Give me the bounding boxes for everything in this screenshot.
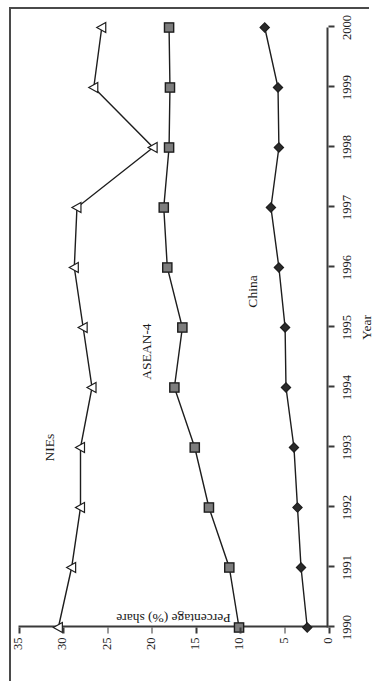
series-annotation-nies: NIEs xyxy=(41,433,57,461)
x-axis-tick xyxy=(328,566,334,568)
series-annotation-asean-4: ASEAN-4 xyxy=(138,323,154,379)
y-axis-tick xyxy=(107,627,109,633)
marker-china xyxy=(302,622,311,631)
line-chart-figure: Year Percentage (%) share 05101520253035… xyxy=(0,0,378,689)
marker-nies xyxy=(88,82,97,92)
marker-asean-4 xyxy=(162,262,171,271)
x-axis-tick-label: 1996 xyxy=(340,255,353,280)
marker-asean-4 xyxy=(234,622,243,631)
x-axis-tick xyxy=(328,626,334,628)
y-axis-tick xyxy=(239,627,241,633)
x-axis-tick-label: 1998 xyxy=(340,135,353,160)
x-axis-tick xyxy=(328,146,334,148)
x-axis-tick-label: 1997 xyxy=(340,195,353,220)
y-axis-tick-label: 20 xyxy=(145,637,158,650)
marker-china xyxy=(274,262,283,271)
marker-asean-4 xyxy=(159,202,168,211)
marker-nies xyxy=(53,622,62,632)
x-axis-tick xyxy=(328,266,334,268)
y-axis-tick xyxy=(62,627,64,633)
marker-asean-4 xyxy=(165,82,174,91)
x-axis-tick-label: 1995 xyxy=(340,315,353,340)
y-axis-tick-label: 35 xyxy=(12,637,25,650)
x-axis-tick xyxy=(328,506,334,508)
series-annotation-china: China xyxy=(244,275,260,307)
marker-china xyxy=(289,442,298,451)
x-axis-tick-label: 1993 xyxy=(340,435,353,460)
x-axis-tick xyxy=(328,26,334,28)
marker-china xyxy=(273,82,282,91)
x-axis-tick-label: 1994 xyxy=(340,375,353,400)
marker-nies xyxy=(69,262,78,272)
y-axis-tick-label: 10 xyxy=(233,637,246,650)
y-axis-tick-label: 25 xyxy=(100,637,113,650)
marker-asean-4 xyxy=(177,322,186,331)
y-axis-tick-label: 0 xyxy=(322,637,335,643)
x-axis-tick xyxy=(328,86,334,88)
marker-asean-4 xyxy=(169,382,178,391)
plot-area: Year Percentage (%) share 05101520253035… xyxy=(18,27,328,627)
x-axis-tick xyxy=(328,446,334,448)
marker-asean-4 xyxy=(224,562,233,571)
y-axis-title: Percentage (%) share xyxy=(116,610,231,626)
x-axis-tick xyxy=(328,206,334,208)
y-axis-tick-label: 5 xyxy=(277,637,290,643)
marker-china xyxy=(274,142,283,151)
x-axis-tick-label: 1992 xyxy=(340,495,353,520)
y-axis-tick-label: 30 xyxy=(56,637,69,650)
rotated-figure-wrapper: Year Percentage (%) share 05101520253035… xyxy=(0,0,378,689)
x-axis-tick-label: 2000 xyxy=(340,15,353,40)
marker-asean-4 xyxy=(164,22,173,31)
marker-china xyxy=(296,562,305,571)
y-axis-tick xyxy=(195,627,197,633)
x-axis-tick xyxy=(328,326,334,328)
marker-china xyxy=(260,22,269,31)
marker-china xyxy=(281,382,290,391)
x-axis-tick xyxy=(328,386,334,388)
marker-asean-4 xyxy=(190,442,199,451)
x-axis-title: Year xyxy=(358,315,374,340)
y-axis-tick xyxy=(151,627,153,633)
marker-china xyxy=(266,202,275,211)
x-axis-tick-label: 1991 xyxy=(340,555,353,580)
series-line-asean-4 xyxy=(163,27,238,627)
marker-china xyxy=(280,322,289,331)
x-axis-tick-label: 1999 xyxy=(340,75,353,100)
y-axis-tick xyxy=(284,627,286,633)
marker-nies xyxy=(71,202,80,212)
x-axis-tick-label: 1990 xyxy=(340,615,353,640)
marker-china xyxy=(292,502,301,511)
y-axis-tick xyxy=(328,627,330,633)
series-plot-layer xyxy=(18,27,328,627)
marker-asean-4 xyxy=(204,502,213,511)
marker-asean-4 xyxy=(164,142,173,151)
marker-nies xyxy=(75,442,84,452)
y-axis-tick xyxy=(18,627,20,633)
y-axis-tick-label: 15 xyxy=(189,637,202,650)
